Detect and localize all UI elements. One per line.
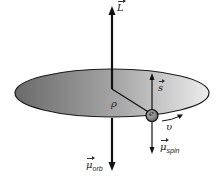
label-mu-spin: μspin: [160, 142, 179, 152]
orbital-magnetic-moment-arrow: [109, 118, 116, 171]
label-rho: ρ: [111, 99, 117, 109]
label-s: s: [158, 83, 163, 93]
label-L: L: [117, 3, 124, 13]
mu-orb-subscript: orb: [93, 165, 103, 172]
mu-orb-symbol: μ: [86, 160, 93, 170]
label-electron: e: [149, 110, 154, 118]
s-symbol: s: [158, 83, 163, 93]
mu-spin-subscript: spin: [167, 147, 180, 154]
diagram-canvas: [0, 0, 220, 182]
spin-magnetic-moment-arrow: [150, 121, 155, 154]
label-velocity: υ: [166, 122, 172, 132]
rho-symbol: ρ: [111, 98, 117, 109]
velocity-symbol: υ: [166, 121, 172, 132]
label-mu-orb: μorb: [86, 160, 103, 170]
mu-spin-symbol: μ: [160, 142, 167, 152]
L-symbol: L: [117, 3, 124, 13]
electron-symbol: e: [149, 109, 154, 118]
